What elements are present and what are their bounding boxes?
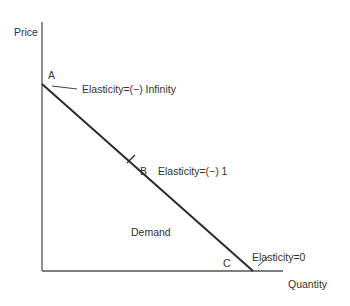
point-c-label: C (223, 258, 231, 269)
point-c-annotation: Elasticity=0 (252, 252, 305, 263)
y-axis-label: Price (14, 27, 38, 38)
point-b-annotation: Elasticity=(−) 1 (158, 166, 227, 177)
demand-curve (42, 84, 253, 271)
x-axis-label: Quantity (288, 279, 327, 290)
point-a-annotation: Elasticity=(−) Infinity (82, 84, 176, 95)
demand-curve-label: Demand (131, 227, 171, 238)
point-b-label: B (140, 166, 147, 177)
point-a-label: A (48, 70, 55, 81)
leader-line-a (52, 86, 77, 89)
